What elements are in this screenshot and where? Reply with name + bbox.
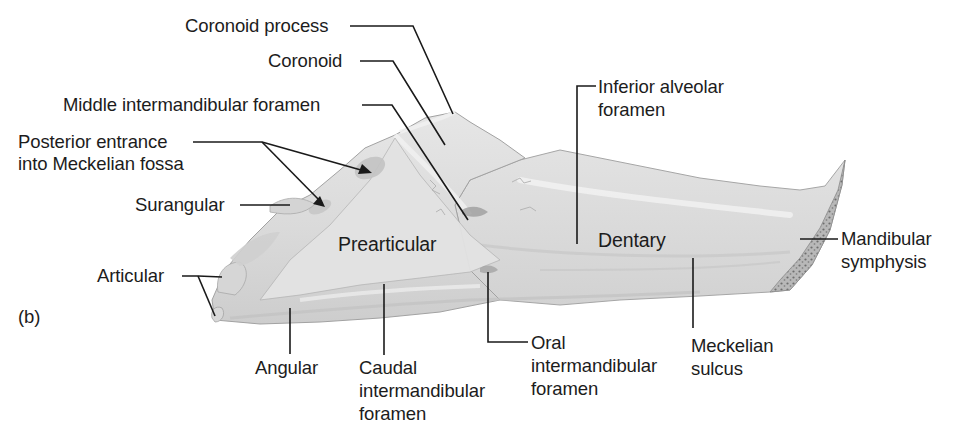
label-dentary: Dentary (598, 229, 666, 251)
leader-articular (182, 276, 222, 277)
label-oral-line2: intermandibular (531, 355, 657, 377)
label-middle-intermandibular-foramen: Middle intermandibular foramen (63, 94, 320, 116)
label-mandibular-symphysis-line2: symphysis (841, 251, 926, 273)
leader-coronoid-process (350, 26, 453, 114)
mandible-diagram: Coronoid process Coronoid Middle interma… (0, 0, 954, 439)
label-prearticular: Prearticular (338, 233, 437, 255)
label-surangular: Surangular (135, 194, 225, 216)
label-inferior-alveolar-line2: foramen (598, 99, 665, 121)
label-oral-line3: foramen (531, 378, 598, 400)
label-coronoid: Coronoid (268, 50, 342, 72)
label-meckelian-sulcus-line1: Meckelian (691, 335, 773, 357)
label-posterior-entrance-line1: Posterior entrance (18, 131, 167, 153)
label-posterior-entrance-line2: into Meckelian fossa (18, 153, 184, 175)
panel-label: (b) (18, 306, 40, 328)
label-angular: Angular (255, 357, 318, 379)
label-articular: Articular (97, 265, 164, 287)
label-oral-line1: Oral (531, 332, 566, 354)
label-meckelian-sulcus-line2: sulcus (691, 358, 743, 380)
label-caudal-line1: Caudal (359, 357, 417, 379)
mandible-illustration (0, 0, 954, 439)
label-coronoid-process: Coronoid process (185, 15, 328, 37)
label-caudal-line2: intermandibular (359, 380, 485, 402)
label-mandibular-symphysis-line1: Mandibular (841, 228, 932, 250)
label-inferior-alveolar-line1: Inferior alveolar (598, 76, 724, 98)
bone-body (212, 112, 845, 324)
label-caudal-line3: foramen (359, 403, 426, 425)
